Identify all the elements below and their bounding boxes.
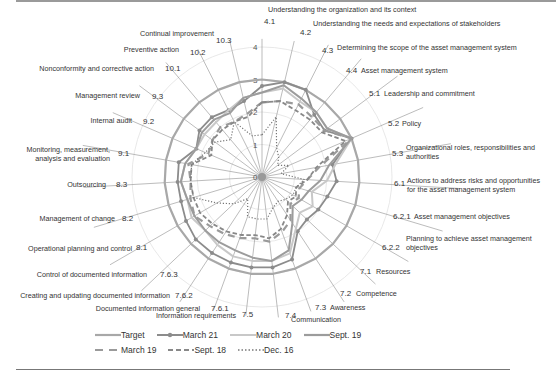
legend: Target March 21 March 20 Sept. 19 March …	[95, 327, 415, 357]
data-marker	[249, 265, 253, 269]
legend-longdash-icon	[95, 346, 121, 354]
radial-tick-label: 1	[253, 141, 258, 150]
data-marker	[290, 257, 294, 261]
axis-category-label: Documented information general	[96, 304, 201, 313]
legend-line-icon	[95, 331, 121, 339]
axis-code-label: 5.2	[388, 119, 400, 128]
axis-code-label: 7.5	[242, 310, 254, 319]
axis-category-label: Actions to address risks and opportuniti…	[407, 176, 540, 185]
data-marker	[210, 115, 214, 119]
data-marker	[282, 80, 286, 84]
radial-tick-label: 0	[253, 173, 258, 182]
data-marker	[197, 128, 201, 132]
axis-category-label: Monitoring, measurement,	[27, 145, 111, 154]
axis-code-label: 6.1	[394, 179, 406, 188]
axis-category-label: objectives	[406, 243, 438, 252]
axis-category-label: Leadership and commitment	[384, 89, 475, 98]
data-marker	[179, 199, 183, 203]
axis-code-label: 7.6.1	[211, 304, 229, 313]
legend-label: Dec. 16	[264, 345, 293, 355]
axis-code-label: 8.3	[116, 180, 128, 189]
data-marker	[229, 261, 233, 265]
legend-line-icon	[304, 331, 330, 339]
axis-code-label: 5.1	[369, 89, 381, 98]
axis-spoke	[262, 107, 423, 177]
axis-spoke	[262, 59, 361, 177]
legend-item-march19: March 19	[95, 345, 156, 355]
axis-code-label: 7.6.2	[175, 291, 193, 300]
axis-category-label: Continual improvement	[140, 29, 214, 38]
axis-code-label: 4.1	[264, 17, 276, 26]
axis-code-label: 4.4	[346, 66, 358, 75]
legend-label: Target	[121, 330, 145, 340]
data-marker	[194, 237, 198, 241]
data-marker	[260, 84, 264, 88]
data-marker	[305, 217, 309, 221]
data-marker	[271, 265, 275, 269]
axis-category-label: Policy	[402, 119, 422, 128]
bottom-rule	[16, 369, 510, 370]
data-marker	[210, 251, 214, 255]
axis-code-label: 6.2.1	[393, 212, 411, 221]
axis-category-label: authorities	[406, 152, 440, 161]
data-marker	[316, 208, 320, 212]
axis-category-label: Control of documented information	[37, 270, 147, 279]
axis-code-label: 4.3	[322, 46, 334, 55]
axis-code-label: 10.3	[216, 36, 232, 45]
legend-item-sept19: Sept. 19	[304, 330, 362, 340]
axis-category-label: Organizational roles, responsibilities a…	[406, 143, 535, 152]
axis-spoke	[113, 113, 262, 177]
axis-category-label: Communication	[291, 315, 341, 324]
axis-category-label: Management review	[75, 91, 141, 100]
axis-category-label: Competence	[356, 289, 397, 298]
legend-label: Sept. 19	[330, 330, 362, 340]
axis-code-label: 9.3	[152, 92, 164, 101]
legend-line-marker-icon	[157, 331, 183, 339]
axis-code-label: 7.3	[315, 303, 327, 312]
legend-item-march21: March 21	[157, 330, 218, 340]
data-marker	[176, 180, 180, 184]
legend-item-sept18: Sept. 18	[168, 345, 226, 355]
axis-category-label: analysis and evaluation	[35, 154, 110, 163]
data-marker	[335, 179, 339, 183]
axis-code-label: 8.1	[136, 243, 148, 252]
legend-label: March 21	[183, 330, 218, 340]
legend-row-1: Target March 21 March 20 Sept. 19	[95, 327, 415, 342]
axis-code-label: 6.2.2	[382, 243, 400, 252]
axis-code-label: 7.6.3	[160, 270, 178, 279]
data-marker	[304, 88, 308, 92]
axis-code-label: 10.1	[165, 64, 181, 73]
legend-item-dec16: Dec. 16	[238, 345, 293, 355]
axis-category-label: Creating and updating documented informa…	[20, 291, 170, 300]
axis-category-label: Understanding the needs and expectations…	[313, 19, 501, 28]
center-hub	[258, 173, 266, 181]
legend-line-icon	[230, 331, 256, 339]
axis-code-label: 7.2	[340, 289, 352, 298]
axis-category-label: Resources	[376, 267, 411, 276]
legend-label: Sept. 18	[194, 345, 226, 355]
axis-code-label: 9.2	[143, 117, 155, 126]
axis-category-label: Asset management objectives	[414, 212, 510, 221]
data-marker	[184, 219, 188, 223]
axis-category-label: Awareness	[330, 303, 366, 312]
legend-label: March 20	[256, 330, 291, 340]
axis-category-label: Preventive action	[124, 45, 179, 54]
series-sept-19	[181, 85, 352, 261]
legend-label: March 19	[121, 345, 156, 355]
axis-category-label: Asset management system	[361, 66, 448, 75]
axis-category-label: Understanding the organization and its c…	[268, 5, 416, 14]
legend-dash-icon	[168, 346, 194, 354]
axis-code-label: 8.2	[122, 214, 134, 223]
axis-category-label: Nonconformity and corrective action	[39, 64, 154, 73]
legend-item-march20: March 20	[230, 330, 291, 340]
axis-code-label: 5.3	[392, 149, 404, 158]
legend-item-target: Target	[95, 330, 145, 340]
axis-category-label: Management of change	[39, 214, 115, 223]
axis-category-label: Operational planning and control	[28, 244, 132, 253]
axis-spoke	[84, 177, 262, 187]
legend-row-2: March 19 Sept. 18 Dec. 16	[95, 342, 415, 357]
legend-dotted-icon	[238, 346, 264, 354]
axis-category-label: Outsourcing	[67, 180, 106, 189]
axis-category-label: for the asset management system	[407, 185, 515, 194]
axis-code-label: 4.2	[300, 28, 312, 37]
